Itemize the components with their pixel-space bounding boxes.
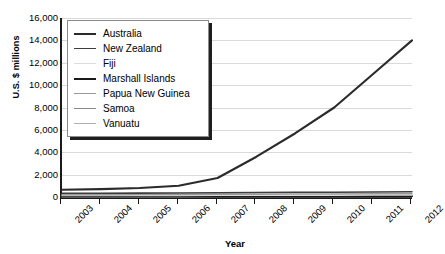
legend-item[interactable]: Marshall Islands	[74, 71, 204, 86]
legend-item[interactable]: Samoa	[74, 101, 204, 116]
x-axis-tick-labels: 2003200420052006200720082009201020112012	[60, 203, 410, 237]
x-axis-tick-label: 2011	[384, 203, 405, 224]
legend-label: Vanuatu	[103, 119, 140, 129]
legend-swatch-line-icon	[74, 93, 96, 94]
x-axis-tick-label: 2004	[112, 203, 134, 225]
y-axis-tick-label: 12,000	[14, 58, 58, 68]
legend-label: Australia	[103, 29, 142, 39]
y-axis-tick-labels: 02,0004,0006,0008,00010,00012,00014,0001…	[14, 18, 58, 197]
y-axis-tick-label: 2,000	[14, 170, 58, 180]
legend-item[interactable]: Australia	[74, 26, 204, 41]
legend-label: New Zealand	[103, 44, 162, 54]
x-axis-tick-label: 2008	[268, 203, 290, 225]
legend-item[interactable]: Papua New Guinea	[74, 86, 204, 101]
legend-swatch-line-icon	[74, 33, 96, 35]
y-axis-tick-label: 14,000	[14, 36, 58, 46]
x-axis-tick-label: 2007	[229, 203, 251, 225]
y-axis-tick-label: 0	[14, 192, 58, 202]
legend-item[interactable]: Fiji	[74, 56, 204, 71]
legend-label: Marshall Islands	[103, 74, 175, 84]
legend-swatch-line-icon	[74, 63, 96, 64]
legend: AustraliaNew ZealandFijiMarshall Islands…	[67, 20, 209, 137]
x-axis-tick-label: 2006	[190, 203, 212, 225]
legend-label: Fiji	[103, 59, 116, 69]
x-axis-title: Year	[60, 238, 410, 249]
series-line	[62, 192, 412, 194]
y-axis-tick-label: 8,000	[14, 103, 58, 113]
y-axis-tick-label: 10,000	[14, 80, 58, 90]
y-axis-tick-label: 6,000	[14, 125, 58, 135]
x-axis-tick-label: 2010	[345, 203, 367, 225]
x-axis-tick-label: 2005	[151, 203, 173, 225]
x-axis-tick-label: 2003	[73, 203, 95, 225]
x-axis-tick-mark	[410, 199, 411, 204]
legend-swatch-line-icon	[74, 48, 96, 49]
legend-swatch-line-icon	[74, 78, 96, 80]
y-axis-tick-label: 16,000	[14, 13, 58, 23]
legend-item[interactable]: Vanuatu	[74, 116, 204, 131]
legend-swatch-line-icon	[74, 108, 96, 109]
legend-swatch-line-icon	[74, 123, 96, 124]
x-axis-tick-label: 2012	[423, 203, 445, 225]
y-axis-tick-label: 4,000	[14, 148, 58, 158]
legend-label: Papua New Guinea	[103, 89, 190, 99]
legend-item[interactable]: New Zealand	[74, 41, 204, 56]
legend-label: Samoa	[103, 104, 135, 114]
x-axis-tick-label: 2009	[307, 203, 329, 225]
